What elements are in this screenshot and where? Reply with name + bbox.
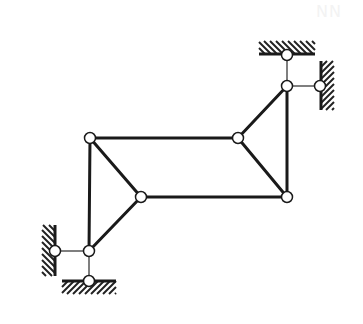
bar-AC	[90, 138, 141, 197]
pin-joint-C	[136, 192, 147, 203]
watermark: NN	[316, 2, 342, 21]
pin-joint-J	[282, 50, 293, 61]
diagram-canvas	[0, 0, 363, 324]
pin-joint-I	[315, 81, 326, 92]
bar-BD	[238, 138, 287, 197]
bar-AE	[89, 138, 90, 251]
pin-joint-A	[85, 133, 96, 144]
pin-joint-G	[84, 276, 95, 287]
pin-joint-B	[233, 133, 244, 144]
bars-layer	[55, 55, 320, 281]
bar-BH	[238, 86, 287, 138]
pin-joint-D	[282, 192, 293, 203]
bar-CE	[89, 197, 141, 251]
linkage-diagram: NN	[0, 0, 363, 324]
pin-joint-H	[282, 81, 293, 92]
pin-joint-E	[84, 246, 95, 257]
pin-joint-F	[50, 246, 61, 257]
